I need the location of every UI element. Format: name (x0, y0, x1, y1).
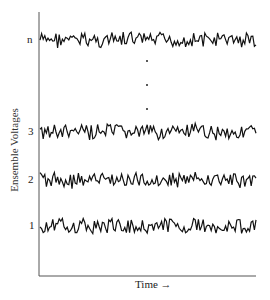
ellipsis-dot (146, 84, 148, 86)
trace-3 (40, 123, 256, 140)
trace-1 (40, 219, 256, 234)
noise-traces (40, 32, 256, 234)
trace-label-3: 3 (28, 125, 34, 137)
ellipsis-dot (146, 60, 148, 62)
trace-2 (40, 172, 256, 188)
ensemble-plot (0, 0, 270, 300)
trace-label-2: 2 (28, 173, 34, 185)
trace-label-n: n (27, 33, 33, 45)
trace-n (40, 32, 256, 48)
trace-label-1: 1 (29, 219, 35, 231)
ellipsis-dot (146, 108, 148, 110)
y-axis-label: Ensemble Voltages (8, 108, 20, 192)
x-axis-label: Time → (135, 278, 172, 290)
